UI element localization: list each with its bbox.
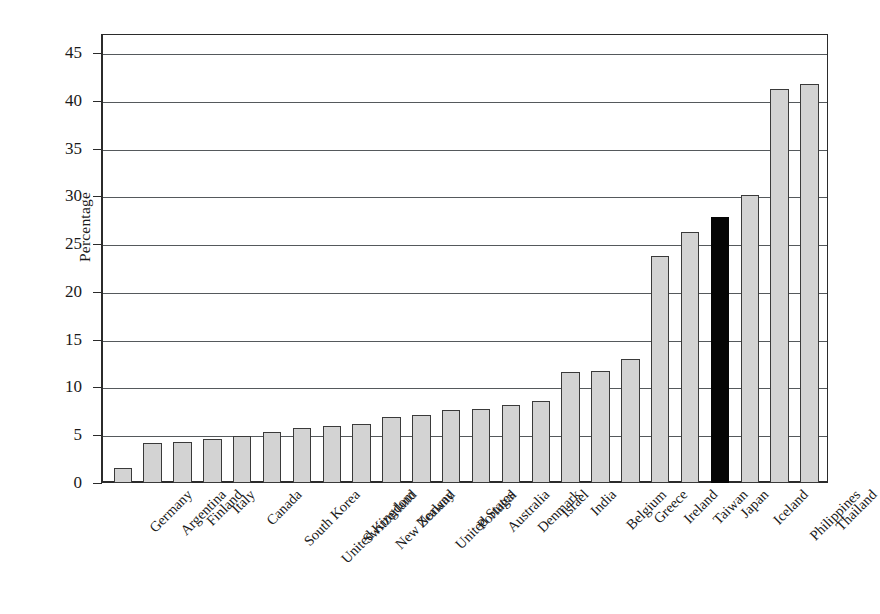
bar-united-kingdom[interactable] <box>293 428 312 483</box>
y-axis-tick <box>93 483 102 484</box>
bar-philippines[interactable] <box>770 89 789 483</box>
bar-taiwan[interactable] <box>681 232 700 483</box>
bar-australia[interactable] <box>472 409 491 483</box>
bar-norway[interactable] <box>382 417 401 483</box>
bar-denmark[interactable] <box>502 405 521 483</box>
bar-thailand[interactable] <box>800 84 819 483</box>
bar-japan[interactable] <box>711 217 730 483</box>
bar-switzerland[interactable] <box>323 426 342 483</box>
y-axis-tick-label: 25 <box>40 235 82 252</box>
x-axis-label-canada: Canada <box>263 487 304 528</box>
y-axis-tick-label: 10 <box>40 378 82 395</box>
bar-ireland[interactable] <box>651 256 670 483</box>
bar-finland[interactable] <box>173 442 192 483</box>
y-axis-tick-label: 30 <box>40 187 82 204</box>
x-axis-label-india: India <box>588 487 619 518</box>
bar-argentina[interactable] <box>143 443 162 483</box>
bar-canada[interactable] <box>233 436 252 483</box>
bar-india[interactable] <box>561 372 580 483</box>
y-axis-tick-label: 45 <box>40 44 82 61</box>
bar-iceland[interactable] <box>741 195 760 484</box>
bar-united-states[interactable] <box>412 415 431 483</box>
y-axis-tick-label: 40 <box>40 92 82 109</box>
bar-portugal[interactable] <box>442 410 461 483</box>
bar-greece[interactable] <box>621 359 640 483</box>
bar-south-korea[interactable] <box>263 432 282 483</box>
y-axis-title: Percentage <box>14 44 38 204</box>
x-axis-label-norway: Norway <box>413 487 456 530</box>
bars-layer <box>101 34 828 483</box>
bar-new-zealand[interactable] <box>352 424 371 483</box>
x-axis-labels: GermanyArgentinaFinlandItalyCanadaSouth … <box>101 487 841 612</box>
y-axis-tick-label: 20 <box>40 283 82 300</box>
y-axis-tick-label: 35 <box>40 140 82 157</box>
bar-israel[interactable] <box>532 401 551 483</box>
y-axis-tick-label: 5 <box>40 426 82 443</box>
x-axis-label-iceland: Iceland <box>770 487 810 527</box>
bar-belgium[interactable] <box>591 371 610 483</box>
y-axis-tick-label: 0 <box>40 474 82 491</box>
x-axis-label-israel: Israel <box>558 487 591 520</box>
bar-germany[interactable] <box>114 468 133 483</box>
bar-italy[interactable] <box>203 439 222 483</box>
y-axis-tick-label: 15 <box>40 331 82 348</box>
